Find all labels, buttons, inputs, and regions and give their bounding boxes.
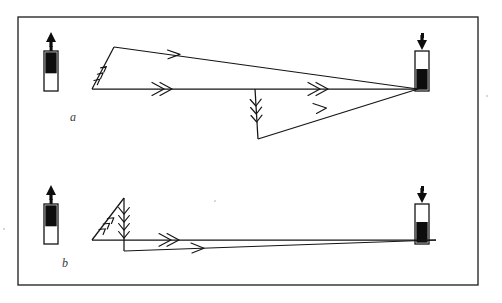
up-arrow-bar-symbol (44, 185, 58, 244)
up-arrow-icon (46, 185, 56, 200)
symbol-bar-fill-bottom (416, 69, 427, 90)
symbol-stem (421, 186, 424, 191)
symbol-stem (421, 33, 424, 38)
symbol-bar-fill-top (45, 52, 56, 73)
figure-frame (18, 17, 478, 285)
up-arrow-bar-symbol (44, 32, 58, 91)
symbol-stem (50, 46, 53, 51)
figure-canvas: a (0, 0, 502, 303)
symbol-bar-fill-top (45, 205, 56, 226)
arrowhead-group-recovery (313, 104, 327, 114)
segment-lower-horizontal (124, 240, 436, 251)
speckle (214, 200, 216, 202)
down-arrow-bar-symbol (415, 33, 429, 91)
speckle (486, 95, 488, 97)
symbol-stem (50, 199, 53, 204)
speckle (3, 228, 5, 230)
segment-rising-diagonal (92, 47, 114, 89)
segment-recovery-diagonal (258, 89, 418, 139)
panel-b: b (44, 185, 436, 270)
up-arrow-icon (46, 32, 56, 47)
panel-label-b: b (62, 256, 68, 270)
panel-a: a (44, 32, 429, 139)
figure-root: a (0, 0, 502, 303)
panel-label-a: a (70, 110, 76, 124)
down-arrow-bar-symbol (415, 186, 429, 244)
